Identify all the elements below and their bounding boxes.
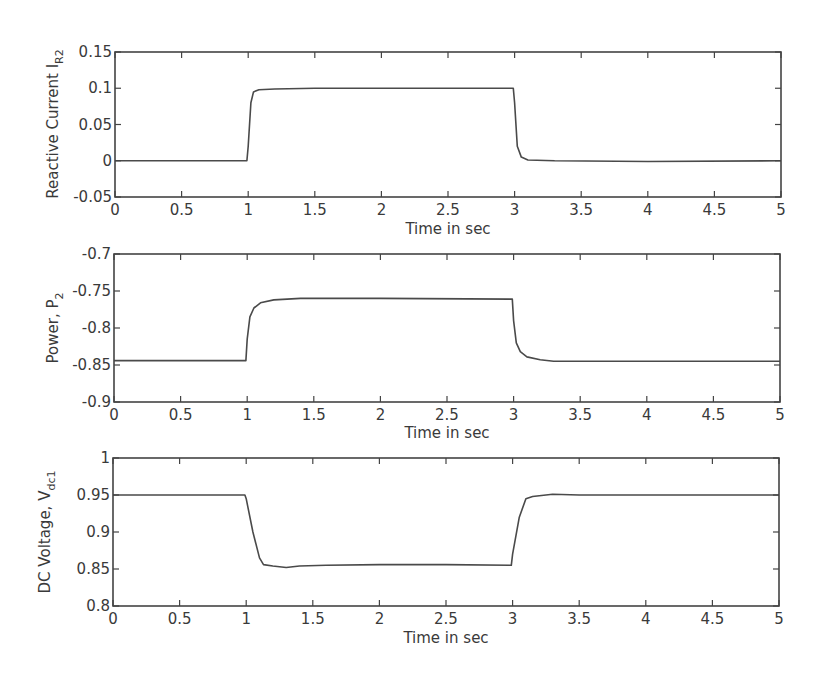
x-tick-label: 2 <box>376 406 386 424</box>
y-tick-label: 0.15 <box>79 43 112 61</box>
x-tick-label: 3.5 <box>569 201 593 219</box>
y-tick-label: 0.95 <box>77 486 110 504</box>
y-axis-label-reactive-current: Reactive Current IR2 <box>44 49 66 199</box>
y-tick-label: -0.7 <box>82 245 111 263</box>
x-tick-label: 1.5 <box>303 201 327 219</box>
x-tick-label: 2.5 <box>435 406 459 424</box>
y-tick-label: -0.9 <box>82 393 111 411</box>
x-axis-label-reactive-current: Time in sec <box>404 220 490 238</box>
x-tick-label: 4 <box>642 406 652 424</box>
x-tick-label: 0.5 <box>169 406 193 424</box>
data-line <box>115 88 781 161</box>
x-tick-label: 1 <box>242 406 252 424</box>
x-tick-label: 1 <box>241 610 251 628</box>
x-tick-label: 3.5 <box>568 406 592 424</box>
x-tick-label: 4 <box>641 610 651 628</box>
x-tick-label: 5 <box>775 406 785 424</box>
x-tick-label: 4.5 <box>701 406 725 424</box>
x-tick-label: 4 <box>643 201 653 219</box>
dc-voltage-plot: 00.511.522.533.544.550.80.850.90.951 <box>77 449 784 628</box>
x-tick-label: 0.5 <box>170 201 194 219</box>
x-tick-label: 2.5 <box>436 201 460 219</box>
x-tick-label: 3 <box>508 610 518 628</box>
x-tick-label: 4.5 <box>700 610 724 628</box>
x-axis-label-dc-voltage: Time in sec <box>402 629 488 647</box>
axes-frame <box>115 52 781 197</box>
data-line <box>114 298 780 361</box>
y-tick-label: 0.9 <box>86 523 110 541</box>
x-tick-label: 4.5 <box>702 201 726 219</box>
x-tick-label: 5 <box>776 201 786 219</box>
x-tick-label: 3 <box>510 201 520 219</box>
y-tick-label: -0.85 <box>72 356 111 374</box>
y-tick-label: -0.8 <box>82 319 111 337</box>
chart-figure: 00.511.522.533.544.55-0.0500.050.10.15 0… <box>0 0 817 678</box>
y-tick-label: 0.05 <box>79 116 112 134</box>
x-tick-label: 1.5 <box>301 610 325 628</box>
x-tick-label: 2.5 <box>434 610 458 628</box>
x-tick-label: 1 <box>243 201 253 219</box>
reactive-current-plot: 00.511.522.533.544.55-0.0500.050.10.15 <box>73 43 786 219</box>
y-tick-label: -0.05 <box>73 188 112 206</box>
x-axis-label-power: Time in sec <box>403 424 489 442</box>
axes-frame <box>113 458 779 606</box>
x-tick-label: 2 <box>377 201 387 219</box>
y-tick-label: 1 <box>100 449 110 467</box>
data-line <box>113 494 779 567</box>
axes-frame <box>114 254 780 402</box>
y-tick-label: 0.1 <box>88 79 112 97</box>
y-tick-label: 0.8 <box>86 597 110 615</box>
y-tick-label: 0.85 <box>77 560 110 578</box>
y-axis-label-power: Power, P2 <box>44 293 66 364</box>
power-plot: 00.511.522.533.544.55-0.9-0.85-0.8-0.75-… <box>72 245 785 424</box>
x-tick-label: 5 <box>774 610 784 628</box>
x-tick-label: 1.5 <box>302 406 326 424</box>
y-tick-label: -0.75 <box>72 282 111 300</box>
y-axis-label-dc-voltage: DC Voltage, Vdc1 <box>36 471 58 594</box>
x-tick-label: 0.5 <box>168 610 192 628</box>
y-tick-label: 0 <box>102 152 112 170</box>
x-tick-label: 3 <box>509 406 519 424</box>
x-tick-label: 2 <box>375 610 385 628</box>
x-tick-label: 3.5 <box>567 610 591 628</box>
